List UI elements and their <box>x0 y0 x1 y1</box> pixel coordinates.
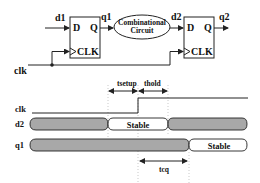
q1-stable-label: Stable <box>208 141 231 151</box>
thold-label: thold <box>144 79 162 88</box>
clk-to-ff2-wire <box>170 52 183 66</box>
clk-to-ff1-wire <box>52 52 69 66</box>
tcq-label: tcq <box>159 165 170 174</box>
q1-label: q1 <box>101 11 112 22</box>
combinational-label-line2: Circuit <box>131 26 154 35</box>
ff2-q-pin: Q <box>204 22 212 33</box>
q1-unstable-segment <box>30 139 189 151</box>
d1-label: d1 <box>55 12 66 23</box>
timing-row-label-q1: q1 <box>15 140 24 150</box>
ff2-d-pin: D <box>187 22 194 33</box>
ff1-clk-pin: CLK <box>77 46 99 57</box>
timing-row-label-d2: d2 <box>15 119 24 129</box>
clk-waveform <box>32 98 248 113</box>
q2-label: q2 <box>219 11 230 22</box>
timing-diagram: d1 D Q CLK q1 Combinational Circuit d2 D… <box>0 0 260 183</box>
ff1-d-pin: D <box>73 22 80 33</box>
d2-unstable-segment-2 <box>168 118 247 130</box>
clk-label: clk <box>14 65 27 76</box>
ff1-q-pin: Q <box>90 22 98 33</box>
tsetup-label: tsetup <box>117 79 137 88</box>
d2-stable-label: Stable <box>127 120 150 130</box>
ff2-clk-pin: CLK <box>191 46 213 57</box>
d2-label: d2 <box>171 11 182 22</box>
d2-unstable-segment-1 <box>30 118 108 130</box>
timing-row-label-clk: clk <box>15 104 26 114</box>
